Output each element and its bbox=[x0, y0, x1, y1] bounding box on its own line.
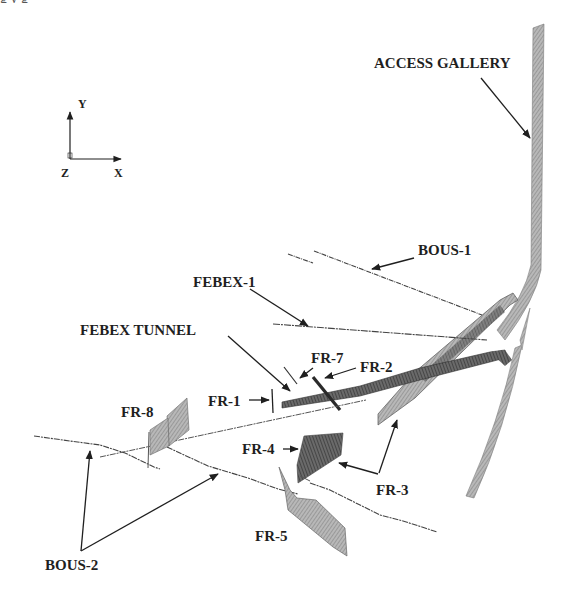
model-drawing bbox=[0, 0, 582, 597]
fr-3-leader-a bbox=[339, 463, 378, 474]
geology-model-diagram: g y g Y X Z ACCESS GALLERY BOUS-1 FEBEX-… bbox=[0, 0, 582, 597]
febex-tunnel-leader bbox=[228, 336, 290, 391]
label-fr-7: FR-7 bbox=[311, 351, 344, 366]
label-bous-2: BOUS-2 bbox=[45, 558, 98, 573]
fr-5-mesh bbox=[279, 467, 347, 556]
fr-7-fracture bbox=[284, 367, 297, 384]
bous-1-leader bbox=[372, 258, 414, 269]
y-axis-label: Y bbox=[78, 98, 87, 110]
access-gallery-leader bbox=[481, 78, 530, 138]
label-febex-tunnel: FEBEX TUNNEL bbox=[80, 323, 196, 338]
label-fr-3: FR-3 bbox=[376, 483, 409, 498]
label-fr-8: FR-8 bbox=[121, 405, 154, 420]
leader-arrows bbox=[81, 78, 530, 551]
access-gallery-mesh bbox=[466, 24, 544, 498]
fr-1-fracture bbox=[272, 389, 273, 413]
x-axis-label: X bbox=[114, 167, 123, 179]
febex-1-leader bbox=[250, 289, 308, 326]
axis-triad bbox=[68, 112, 121, 159]
fr-3-leader-b bbox=[379, 420, 397, 473]
label-bous-1: BOUS-1 bbox=[418, 243, 471, 258]
fr-4-mesh bbox=[297, 433, 343, 483]
fr-7-leader bbox=[300, 368, 313, 378]
caption-fragment: g y g bbox=[0, 0, 582, 3]
bous-2-leader-b bbox=[81, 474, 218, 551]
fr-8-mesh bbox=[148, 398, 189, 468]
label-fr-1: FR-1 bbox=[208, 394, 241, 409]
label-access-gallery: ACCESS GALLERY bbox=[374, 56, 511, 71]
bous-2-leader-a bbox=[81, 451, 90, 551]
bous-2-borehole bbox=[34, 436, 160, 469]
fr-2-leader bbox=[325, 368, 356, 378]
label-fr-2: FR-2 bbox=[360, 360, 393, 375]
label-fr-5: FR-5 bbox=[255, 529, 288, 544]
febex-1-borehole bbox=[273, 324, 487, 340]
z-axis-label: Z bbox=[61, 167, 69, 179]
bous-1-borehole bbox=[288, 251, 482, 315]
label-fr-4: FR-4 bbox=[242, 442, 275, 457]
label-febex-1: FEBEX-1 bbox=[193, 275, 256, 290]
